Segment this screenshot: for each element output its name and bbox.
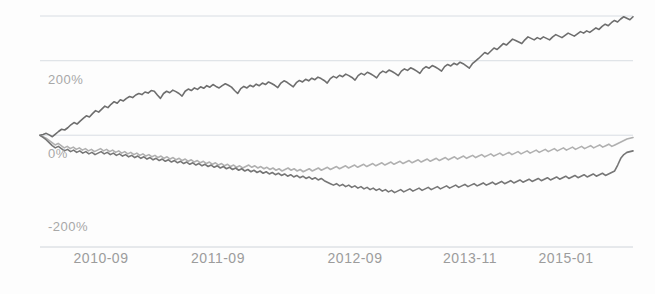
x-axis-tick-label-0: 2010-09 <box>74 250 129 266</box>
series-line-3 <box>40 135 633 192</box>
x-axis-tick-label-1: 2011-09 <box>191 250 245 266</box>
x-axis-tick-label-4: 2015-01 <box>539 250 594 266</box>
series-line-2 <box>40 135 633 172</box>
y-axis-tick-label-200: 200% <box>48 72 83 87</box>
x-axis-tick-label-2: 2012-09 <box>328 250 383 266</box>
series-line-1 <box>40 17 633 137</box>
y-axis-tick-label-0: 0% <box>48 146 68 161</box>
y-axis-tick-label-neg200: -200% <box>48 219 88 234</box>
x-axis-tick-label-3: 2013-11 <box>443 250 497 266</box>
chart-container: 200% 0% -200% 2010-09 2011-09 2012-09 20… <box>0 0 655 294</box>
